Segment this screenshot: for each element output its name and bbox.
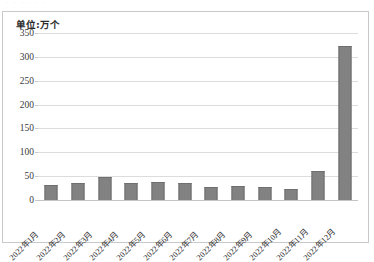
- bar-slot: [278, 33, 305, 200]
- bar-slot: [198, 33, 225, 200]
- bar-slot: [331, 33, 358, 200]
- bar: [285, 189, 298, 200]
- gridline: [38, 200, 358, 201]
- bar-slot: [91, 33, 118, 200]
- y-axis-tick-label: 300: [20, 52, 34, 62]
- y-axis-tickmark: [35, 200, 38, 201]
- bar: [45, 185, 58, 200]
- bar: [258, 187, 271, 200]
- y-axis-tick-label: 250: [20, 76, 34, 86]
- y-axis-tick-label: 50: [25, 171, 35, 181]
- bar: [205, 187, 218, 200]
- bar-slot: [171, 33, 198, 200]
- bar-slot: [38, 33, 65, 200]
- bar: [71, 183, 84, 200]
- bar-slot: [305, 33, 332, 200]
- plot-area: 050100150200250300350: [38, 33, 358, 200]
- bar: [98, 177, 111, 200]
- bar-slot: [118, 33, 145, 200]
- y-axis-tick-label: 350: [20, 28, 34, 38]
- y-axis-tick-label: 150: [20, 123, 34, 133]
- y-axis-tick-label: 200: [20, 100, 34, 110]
- bar-slot: [145, 33, 172, 200]
- bar: [125, 183, 138, 200]
- bar-slot: [251, 33, 278, 200]
- bar-series: [38, 33, 358, 200]
- bar: [338, 46, 351, 200]
- bar: [311, 171, 324, 200]
- bar: [231, 186, 244, 200]
- cropped-header-sliver: · · · · · ·: [6, 0, 126, 7]
- chart-frame: 单位:万个 050100150200250300350 2022年1月2022年…: [2, 11, 369, 243]
- bar: [151, 182, 164, 200]
- bar-slot: [65, 33, 92, 200]
- y-axis-tick-label: 0: [29, 195, 34, 205]
- y-axis-tick-label: 100: [20, 147, 34, 157]
- bar-slot: [225, 33, 252, 200]
- bar: [178, 183, 191, 200]
